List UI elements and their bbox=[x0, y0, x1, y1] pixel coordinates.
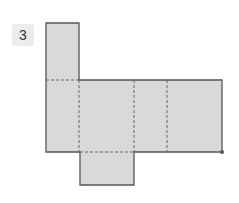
cube-net-diagram bbox=[0, 0, 239, 203]
corner-point bbox=[220, 150, 224, 154]
